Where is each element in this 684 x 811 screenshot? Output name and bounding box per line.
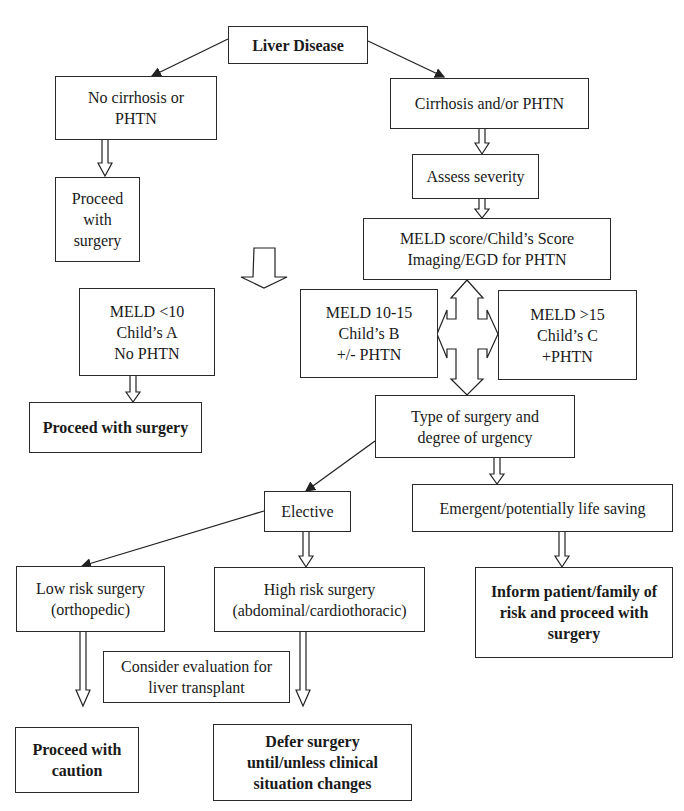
- node-proceed-caution: Proceed with caution: [15, 727, 139, 793]
- four-way-arrow: [437, 280, 498, 395]
- node-liver-disease: Liver Disease: [228, 26, 368, 64]
- node-proceed-surgery: Proceed with surgery: [29, 402, 202, 453]
- arrow-no-cirrhosis-to-proceed: [98, 139, 112, 176]
- node-meld-10-15: MELD 10-15 Child’s B +/- PHTN: [300, 289, 438, 378]
- node-consider-transplant: Consider evaluation for liver transplant: [103, 651, 290, 703]
- node-type-of-surgery: Type of surgery and degree of urgency: [375, 395, 575, 458]
- arrow-cirrhosis-to-assess: [475, 128, 489, 154]
- node-low-risk: Low risk surgery (orthopedic): [16, 566, 165, 632]
- edge-type-to-elective: [306, 441, 375, 491]
- edge-liver-to-no-cirrhosis: [152, 39, 228, 76]
- node-high-risk: High risk surgery (abdominal/cardiothora…: [214, 567, 425, 632]
- node-emergent: Emergent/potentially life saving: [412, 484, 673, 532]
- arrow-high-risk-to-defer: [296, 631, 310, 706]
- edge-liver-to-cirrhosis: [368, 41, 444, 77]
- node-meld-score: MELD score/Child’s Score Imaging/EGD for…: [363, 218, 611, 280]
- node-no-cirrhosis: No cirrhosis or PHTN: [55, 76, 217, 140]
- edge-elective-to-low-risk: [82, 511, 264, 566]
- arrow-assess-to-meld: [475, 198, 489, 218]
- node-proceed-small: Proceed with surgery: [55, 177, 140, 262]
- node-meld-lt10: MELD <10 Child’s A No PHTN: [79, 288, 215, 376]
- node-elective: Elective: [264, 491, 351, 532]
- arrow-emergent-to-inform: [555, 531, 569, 567]
- arrow-low-risk-to-caution: [76, 631, 90, 706]
- node-cirrhosis: Cirrhosis and/or PHTN: [390, 78, 589, 129]
- big-down-arrow: [241, 248, 287, 288]
- node-defer-surgery: Defer surgery until/unless clinical situ…: [213, 724, 412, 801]
- arrow-meld10-to-proceed: [126, 375, 140, 402]
- arrow-type-to-emergent: [490, 457, 504, 484]
- node-assess-severity: Assess severity: [412, 154, 539, 199]
- node-inform-patient: Inform patient/family of risk and procee…: [475, 567, 673, 658]
- node-meld-gt15: MELD >15 Child’s C +PHTN: [498, 290, 637, 380]
- arrow-elective-to-high-risk: [299, 531, 313, 567]
